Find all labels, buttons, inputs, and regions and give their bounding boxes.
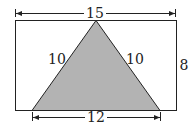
arrowhead-left-icon bbox=[33, 115, 39, 120]
arrowhead-left-icon bbox=[16, 11, 22, 16]
base-label: 12 bbox=[87, 109, 105, 125]
figure: 15 10 10 8 12 bbox=[0, 0, 193, 126]
arrowhead-right-icon bbox=[154, 115, 160, 120]
left-side-label: 10 bbox=[48, 51, 66, 67]
top-dimension: 15 bbox=[16, 5, 176, 21]
arrowhead-right-icon bbox=[169, 11, 175, 16]
width-label: 15 bbox=[86, 5, 104, 21]
bottom-dimension: 12 bbox=[33, 109, 161, 125]
right-side-label: 10 bbox=[126, 51, 144, 67]
height-label: 8 bbox=[180, 57, 189, 73]
